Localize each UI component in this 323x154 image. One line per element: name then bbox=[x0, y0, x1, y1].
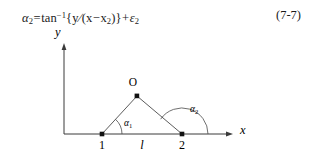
equation-row: α2=tan−1{y∕(x−x2)}+ε2 (7-7) bbox=[0, 6, 323, 26]
point-2-dot bbox=[180, 132, 185, 137]
y-axis bbox=[62, 43, 67, 134]
point-2-label: 2 bbox=[179, 138, 185, 152]
equation-function-exponent: −1 bbox=[57, 10, 66, 20]
equation-lhs-symbol: α bbox=[22, 11, 29, 25]
vertex-o-label: O bbox=[129, 76, 137, 88]
x-axis-label: x bbox=[239, 123, 246, 137]
equation-function: tan bbox=[41, 11, 57, 25]
x-axis-arrowhead bbox=[226, 132, 233, 137]
equation-number: (7-7) bbox=[276, 6, 301, 24]
y-axis-label: y bbox=[53, 25, 61, 39]
angle-alpha2-arc bbox=[161, 108, 208, 134]
angle-alpha1-arc bbox=[116, 119, 123, 134]
triangle-legs bbox=[102, 96, 182, 134]
triangle-diagram: y x O 1 2 l α1 α2 bbox=[0, 24, 323, 154]
angle-alpha1-label: α1 bbox=[124, 118, 132, 129]
equation-plus: + bbox=[122, 11, 130, 25]
vertex-o-dot bbox=[135, 94, 140, 99]
baseline-length-label: l bbox=[140, 138, 144, 152]
equation-equals: = bbox=[33, 11, 41, 25]
y-axis-arrowhead bbox=[62, 43, 67, 50]
leg-o-to-2 bbox=[137, 96, 182, 134]
equation-close-brace: } bbox=[115, 11, 121, 25]
point-1-dot bbox=[100, 132, 105, 137]
figure-page: α2=tan−1{y∕(x−x2)}+ε2 (7-7) bbox=[0, 0, 323, 154]
point-1-label: 1 bbox=[99, 138, 105, 152]
angle-alpha2-label: α2 bbox=[190, 104, 198, 115]
